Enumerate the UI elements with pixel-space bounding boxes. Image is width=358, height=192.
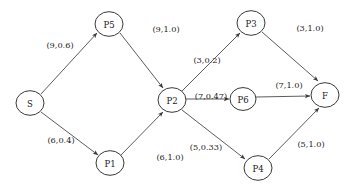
flow-network-graph: SP5P1P2P3P6P4F (9,0.6)(6,0.4)(9,1.0)(6,1…: [0, 0, 358, 192]
edge-p3-to-f: [262, 32, 318, 81]
edge-label-p2-p6: (7,0.47): [195, 91, 227, 101]
node-label-p6: P6: [237, 95, 248, 105]
edge-label-p2-p4: (5,0.33): [190, 142, 222, 152]
edge-label-s-p5: (9,0.6): [46, 40, 73, 50]
node-s[interactable]: S: [16, 91, 44, 116]
edge-p4-to-f: [269, 108, 319, 159]
node-p2[interactable]: P2: [158, 88, 186, 113]
edge-labels-layer: (9,0.6)(6,0.4)(9,1.0)(6,1.0)(3,0.2)(7,0.…: [46, 23, 324, 162]
edge-s-to-p1: [41, 112, 98, 155]
node-label-s: S: [27, 99, 33, 109]
node-p4[interactable]: P4: [244, 156, 272, 181]
node-label-p5: P5: [103, 20, 114, 30]
node-label-p1: P1: [104, 159, 115, 169]
edge-p6-to-f: [256, 96, 310, 97]
edge-label-s-p1: (6,0.4): [47, 135, 74, 145]
node-p1[interactable]: P1: [96, 151, 124, 176]
edge-label-p6-f: (7,1.0): [275, 80, 302, 90]
edge-label-p3-f: (3,1.0): [296, 23, 323, 33]
edge-p1-to-p2: [121, 112, 163, 155]
edge-label-p1-p2: (6,1.0): [156, 152, 183, 162]
node-label-p3: P3: [245, 19, 256, 29]
node-p5[interactable]: P5: [95, 12, 123, 37]
node-f[interactable]: F: [311, 83, 339, 108]
edge-p5-to-p2: [120, 33, 163, 88]
edge-label-p2-p3: (3,0.2): [193, 55, 220, 65]
node-label-p4: P4: [252, 164, 263, 174]
diagram-canvas: SP5P1P2P3P6P4F (9,0.6)(6,0.4)(9,1.0)(6,1…: [0, 0, 358, 192]
node-label-p2: P2: [166, 96, 177, 106]
node-p6[interactable]: P6: [230, 88, 256, 111]
node-p3[interactable]: P3: [237, 11, 265, 36]
node-label-f: F: [322, 91, 328, 101]
edge-label-p5-p2: (9,1.0): [152, 24, 179, 34]
edge-label-p4-f: (5,1.0): [297, 139, 324, 149]
